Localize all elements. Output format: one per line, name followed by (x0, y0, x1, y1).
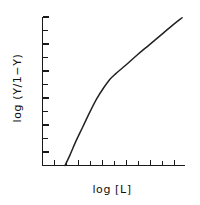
x-axis-label: log [L] (92, 183, 131, 196)
figure-background (0, 0, 200, 205)
hill-plot-figure: log [L] log (Y/1−Y) (0, 0, 200, 205)
chart-screenshot: log [L] log (Y/1−Y) (0, 0, 200, 205)
y-axis-label: log (Y/1−Y) (11, 54, 24, 123)
